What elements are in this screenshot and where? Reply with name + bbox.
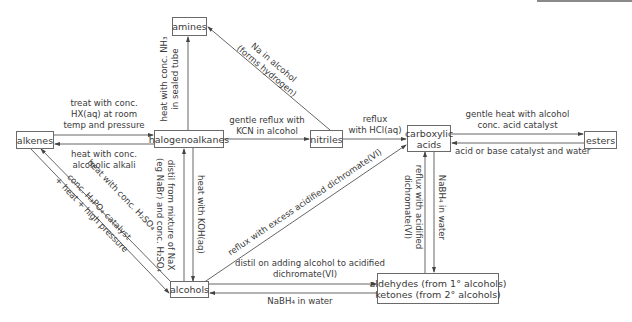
label-nitriles-to-carboxylic: reflux with HCl(aq) [345, 114, 405, 136]
label-aldehydes-to-carboxylic: reflux with acidified dichromate(VI) [402, 162, 424, 252]
label-line: treat with conc. [62, 98, 146, 109]
label-line: dichromate(VI) [402, 162, 413, 252]
node-alkenes: alkenes [16, 131, 54, 149]
node-halogenoalkanes: halogenoalkanes [154, 130, 224, 148]
label-line: distil on adding alcohol to acidified [235, 258, 375, 269]
label-line: heat with KOH(aq) [195, 175, 206, 255]
label-line: heat with conc. [62, 149, 146, 160]
node-nitriles-label: nitriles [310, 134, 342, 145]
label-line: (eg NaBr) and conc. H₂SO₄ [154, 155, 165, 275]
node-nitriles: nitriles [310, 130, 343, 148]
node-aldehydes-label: aldehydes (from 1° alcohols) [369, 278, 506, 289]
label-line: with HCl(aq) [345, 125, 405, 136]
label-esters-to-carboxylic: acid or base catalyst and water [455, 146, 580, 157]
node-halogenoalkanes-label: halogenoalkanes [149, 134, 229, 145]
label-alkenes-to-halogenoalkanes: treat with conc. HX(aq) at room temp and… [62, 98, 146, 131]
label-halogenoalkanes-to-nitriles: gentle reflux with KCN in alcohol [225, 115, 309, 137]
label-line: heat with conc. NH₃ [159, 34, 170, 124]
label-line: NaBH₄ in water [436, 173, 447, 243]
node-carboxylic-label-1: carboxylic [405, 128, 453, 139]
label-line: distil from mixture of NaX [165, 155, 176, 275]
node-carboxylic-acids: carboxylicacids [407, 125, 451, 152]
node-amines-label: amines [172, 21, 207, 32]
node-alcohols-label: alcohols [170, 284, 209, 295]
node-carboxylic-label-2: acids [417, 139, 442, 150]
label-alcohols-to-halogenoalkanes: distil from mixture of NaX (eg NaBr) and… [154, 155, 176, 275]
label-line: HX(aq) at room [62, 109, 146, 120]
node-esters-label: esters [586, 135, 615, 146]
label-carboxylic-to-aldehydes: NaBH₄ in water [436, 173, 447, 243]
label-line: reflux with acidified [413, 162, 424, 252]
node-alkenes-label: alkenes [17, 135, 53, 146]
label-alcohols-to-aldehydes: distil on adding alcohol to acidified di… [235, 258, 375, 280]
node-alcohols: alcohols [170, 281, 209, 298]
label-line: in sealed tube [170, 34, 181, 124]
label-line: gentle reflux with [225, 115, 309, 126]
label-line: temp and pressure [62, 120, 146, 131]
label-halogenoalkanes-to-alcohols: heat with KOH(aq) [195, 175, 206, 255]
node-ketones-label: ketones (from 2° alcohols) [375, 289, 501, 300]
label-line: NaBH₄ in water [250, 296, 350, 307]
label-aldehydes-to-alcohols: NaBH₄ in water [250, 296, 350, 307]
label-line: KCN in alcohol [225, 126, 309, 137]
label-halogenoalkanes-to-amines: heat with conc. NH₃ in sealed tube [159, 34, 181, 124]
node-aldehydes-ketones: aldehydes (from 1° alcohols)ketones (fro… [377, 273, 499, 304]
label-line: reflux [345, 114, 405, 125]
label-line: conc. acid catalyst [460, 120, 575, 131]
label-line: dichromate(VI) [235, 269, 375, 280]
label-line: gentle heat with alcohol [460, 109, 575, 120]
label-carboxylic-to-esters: gentle heat with alcohol conc. acid cata… [460, 109, 575, 131]
label-line: acid or base catalyst and water [455, 146, 580, 157]
label-halogenoalkanes-to-alkenes: heat with conc. alcoholic alkali [62, 149, 146, 171]
